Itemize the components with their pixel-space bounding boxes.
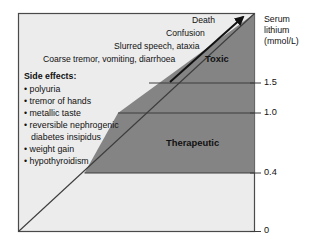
- side-effect-text: weight gain: [30, 144, 75, 154]
- axis-tick-label-1-5: 1.5: [264, 78, 277, 87]
- side-effect-text: polyuria: [30, 84, 61, 94]
- side-effect-item-polyuria: • polyuria: [24, 85, 60, 94]
- axis-title-line-3: (mmol/L): [264, 37, 299, 46]
- axis-title-line-2: lithium: [264, 26, 289, 35]
- zone-label-therapeutic: Therapeutic: [166, 138, 219, 147]
- side-effect-item-hypothyroidism: • hypothyroidism: [24, 157, 89, 166]
- side-effect-item-tremor-of-hands: • tremor of hands: [24, 97, 91, 106]
- side-effect-item-metallic-taste: • metallic taste: [24, 109, 81, 118]
- axis-title-line-1: Serum: [264, 15, 290, 24]
- side-effect-item-weight-gain: • weight gain: [24, 145, 74, 154]
- side-effect-item-continuation: diabetes insipidus: [31, 133, 101, 142]
- side-effect-text: reversible nephrogenic: [30, 120, 119, 130]
- axis-tick-label-0: 0: [264, 226, 269, 235]
- lithium-therapeutic-index-figure: Death Confusion Slurred speech, ataxia C…: [0, 0, 309, 241]
- toxicity-label-confusion: Confusion: [166, 29, 205, 38]
- toxicity-label-slurred-speech-ataxia: Slurred speech, ataxia: [114, 42, 200, 51]
- side-effect-text: tremor of hands: [30, 96, 92, 106]
- toxicity-label-death: Death: [192, 16, 215, 25]
- side-effect-item-reversible-nephrogenic-diabetes-insipidus: • reversible nephrogenic: [24, 121, 119, 130]
- side-effect-text: hypothyroidism: [30, 156, 89, 166]
- side-effects-heading: Side effects:: [24, 72, 76, 81]
- side-effect-text: metallic taste: [30, 108, 81, 118]
- toxicity-label-coarse-tremor-vomiting-diarrhoea: Coarse tremor, vomiting, diarrhoea: [43, 55, 175, 64]
- axis-tick-label-0-4: 0.4: [264, 168, 277, 177]
- zone-label-toxic: Toxic: [205, 54, 229, 63]
- axis-tick-label-1-0: 1.0: [264, 108, 277, 117]
